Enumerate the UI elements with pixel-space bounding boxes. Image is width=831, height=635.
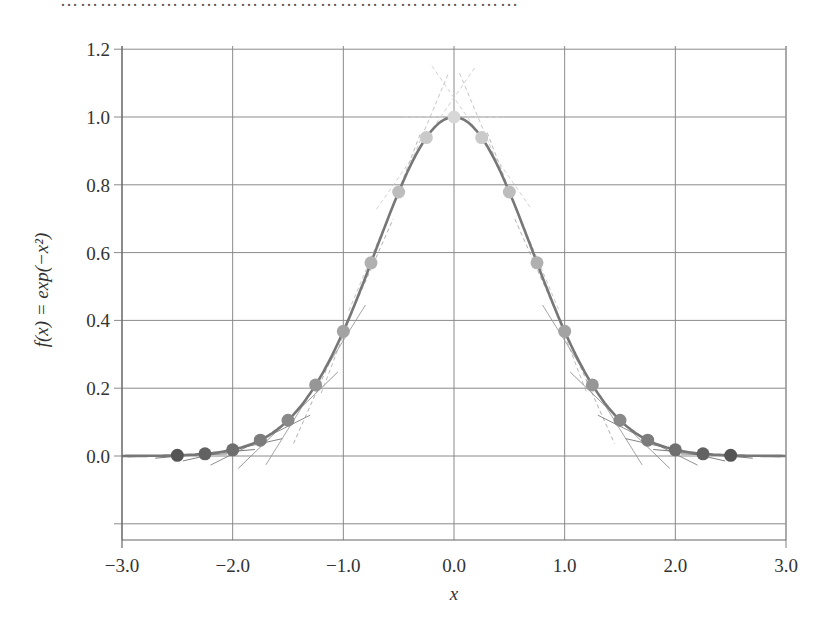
chart: −3.0−2.0−1.00.01.02.03.0 0.00.20.40.60.8…: [0, 0, 831, 635]
sample-point: [364, 256, 377, 269]
y-axis-label: f(x) = exp(−x²): [31, 233, 53, 348]
sample-point: [392, 185, 405, 198]
x-tick-label: 2.0: [663, 555, 687, 576]
y-tick-label: 0.8: [86, 175, 110, 196]
sample-point: [281, 414, 294, 427]
sample-point: [503, 185, 516, 198]
sample-point: [420, 131, 433, 144]
sample-point: [614, 414, 627, 427]
x-axis-label: x: [449, 583, 459, 604]
x-tick-label: −3.0: [105, 555, 139, 576]
sample-point: [531, 256, 544, 269]
x-axis-ticks: −3.0−2.0−1.00.01.02.03.0: [105, 555, 798, 576]
sample-point: [309, 378, 322, 391]
y-tick-label: 1.2: [86, 39, 110, 60]
y-tick-label: 0.4: [86, 310, 110, 331]
x-tick-label: 1.0: [553, 555, 577, 576]
x-tick-label: −2.0: [215, 555, 249, 576]
y-axis-ticks: 0.00.20.40.60.81.01.2: [86, 39, 110, 467]
y-tick-label: 0.0: [86, 446, 110, 467]
sample-point: [586, 378, 599, 391]
x-tick-label: 3.0: [774, 555, 798, 576]
x-tick-label: −1.0: [326, 555, 360, 576]
sample-point: [697, 447, 710, 460]
sample-point: [448, 111, 461, 124]
sample-point: [254, 434, 267, 447]
sample-point: [171, 449, 184, 462]
x-tick-label: 0.0: [442, 555, 466, 576]
sample-point: [226, 443, 239, 456]
sample-point: [558, 325, 571, 338]
sample-point: [337, 325, 350, 338]
sample-point: [669, 443, 682, 456]
sample-point: [475, 131, 488, 144]
y-tick-label: 0.2: [86, 378, 110, 399]
sample-point: [641, 434, 654, 447]
sample-point: [198, 447, 211, 460]
y-tick-label: 0.6: [86, 243, 110, 264]
sample-point: [724, 449, 737, 462]
y-tick-label: 1.0: [86, 107, 110, 128]
